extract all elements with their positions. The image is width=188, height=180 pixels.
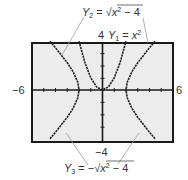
ymax-label: 4	[98, 29, 104, 41]
y1-equation-label: Y1 = x2	[108, 29, 141, 42]
xmax-label: 6	[176, 84, 182, 96]
y2-equation-label: Y2 = √x2 − 4	[82, 6, 140, 19]
y3-equation-label: Y3 = −√x2 − 4	[64, 162, 128, 175]
ymin-label: −4	[95, 146, 108, 158]
graphing-calculator-plot: −6 6 4 −4 Y2 = √x2 − 4 Y1 = x2 Y3 = −√x2…	[0, 0, 188, 180]
xmin-label: −6	[12, 84, 25, 96]
